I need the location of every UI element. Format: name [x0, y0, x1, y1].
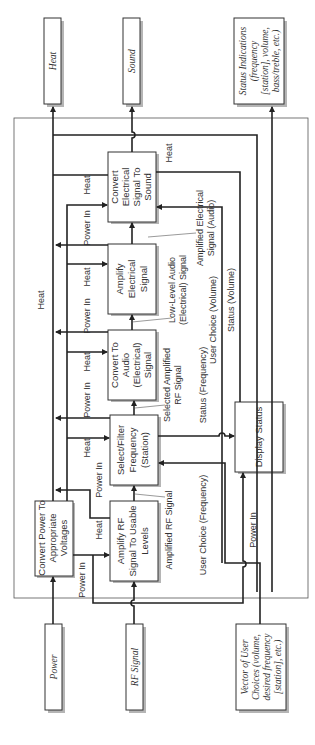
svg-text:Frequency: Frequency — [127, 427, 138, 472]
svg-text:Power In: Power In — [77, 562, 87, 598]
svg-text:Voltages: Voltages — [58, 520, 69, 557]
svg-text:User Choice (Frequency): User Choice (Frequency) — [198, 475, 208, 576]
user-choice-frequency — [159, 463, 260, 624]
output-status-indications: Status Indications (frequency [station],… — [234, 18, 287, 107]
svg-text:Amplified Electrical: Amplified Electrical — [195, 190, 205, 266]
sound-flow — [132, 107, 135, 152]
fn-select-filter: Select/Filter Frequency (Station) — [110, 415, 161, 487]
svg-text:(Electrical) Signal: (Electrical) Signal — [178, 255, 188, 325]
svg-text:Status (Frequency): Status (Frequency) — [198, 347, 208, 424]
label-heat-bus: Heat — [36, 290, 46, 310]
input-power-label: Power — [49, 654, 59, 680]
svg-text:Signal: Signal — [142, 352, 153, 378]
svg-text:Select/Filter: Select/Filter — [115, 425, 126, 475]
svg-text:Status (Volume): Status (Volume) — [226, 268, 236, 332]
svg-text:Amplify RF: Amplify RF — [115, 518, 126, 565]
svg-text:RF Signal: RF Signal — [173, 365, 183, 405]
svg-text:Electrical: Electrical — [126, 260, 137, 299]
input-user-choices: Vector of User Choices (volume, desired … — [236, 624, 289, 713]
svg-text:Display Status: Display Status — [253, 406, 264, 467]
svg-text:Audio: Audio — [120, 353, 131, 377]
svg-text:Heat: Heat — [94, 520, 104, 540]
output-heat: Heat — [44, 18, 64, 107]
fn-amplify-rf: Amplify RF Signal To Usable Levels — [110, 501, 161, 583]
fn-amplify-electrical: Amplify Electrical Signal — [108, 244, 159, 316]
input-rf-label: RF Signal — [130, 648, 140, 688]
fn-convert-to-audio: Convert To Audio (Electrical) Signal — [108, 330, 159, 402]
svg-text:Signal (Audio): Signal (Audio) — [206, 200, 216, 257]
choices-line-3: desired frequency — [262, 633, 272, 701]
svg-text:Power In: Power In — [94, 462, 104, 498]
svg-text:Signal To Usable: Signal To Usable — [127, 505, 138, 576]
functional-flow-diagram: Heat Sound Status Indications (frequency… — [0, 0, 315, 745]
choices-line-4: [station], etc.) — [273, 640, 284, 695]
svg-text:Power In: Power In — [82, 382, 92, 418]
svg-text:Selected Amplified: Selected Amplified — [162, 348, 172, 422]
choices-line-1: Vector of User — [240, 639, 250, 694]
choices-line-2: Choices (volume, — [251, 634, 262, 700]
svg-text:(Station): (Station) — [139, 432, 150, 468]
svg-text:Appropriate: Appropriate — [47, 513, 58, 562]
input-power: Power — [45, 624, 65, 713]
svg-text:Power In: Power In — [82, 210, 92, 246]
svg-text:Sound: Sound — [142, 173, 153, 200]
label-amplified-rf: Amplified RF Signal — [164, 490, 174, 569]
svg-text:Amplify: Amplify — [114, 263, 125, 294]
svg-text:Convert: Convert — [109, 170, 120, 204]
svg-text:Signal To: Signal To — [131, 168, 142, 207]
output-sound: Sound — [123, 18, 143, 107]
status-line-3: [station], volume, — [260, 27, 270, 95]
status-line-1: Status Indications — [238, 27, 248, 96]
svg-text:Power In: Power In — [82, 298, 92, 334]
svg-text:Heat: Heat — [82, 175, 92, 195]
svg-text:Heat: Heat — [82, 438, 92, 458]
output-sound-label: Sound — [127, 49, 137, 73]
fn-convert-to-sound: Convert Electrical Signal To Sound — [108, 152, 159, 224]
status-line-2: (frequency — [249, 40, 260, 81]
fn-convert-power: Convert Power To Appropriate Voltages — [35, 500, 75, 578]
fn-display-status: Display Status — [235, 402, 286, 474]
svg-text:Levels: Levels — [139, 527, 150, 555]
svg-text:Signal: Signal — [138, 266, 149, 292]
svg-text:Low-Level Audio: Low-Level Audio — [167, 257, 177, 323]
svg-text:(Electrical): (Electrical) — [131, 343, 142, 388]
svg-text:Heat: Heat — [82, 267, 92, 287]
svg-text:Convert To: Convert To — [109, 342, 120, 388]
svg-text:User Choice (Volume): User Choice (Volume) — [208, 276, 218, 364]
label-heat-sound: Heat — [164, 143, 174, 163]
svg-text:Power In: Power In — [248, 512, 258, 548]
status-line-4: bass/treble, etc.) — [271, 30, 282, 93]
input-rf-signal: RF Signal — [126, 624, 146, 713]
svg-text:Heat: Heat — [82, 352, 92, 372]
svg-text:Convert Power To: Convert Power To — [36, 500, 47, 575]
output-heat-label: Heat — [48, 51, 58, 71]
svg-text:Electrical: Electrical — [120, 168, 131, 207]
